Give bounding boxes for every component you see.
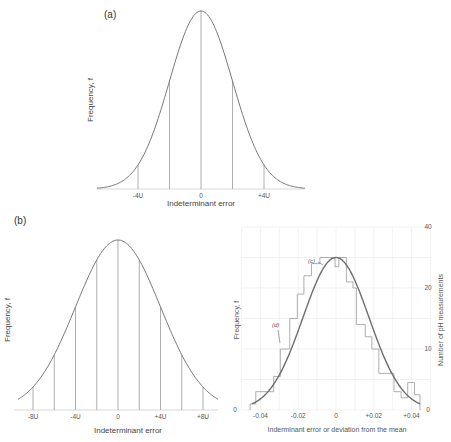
y-tick-label: 20 (424, 284, 432, 291)
panel-b-right-histogram-steps (250, 258, 420, 411)
panel-b-left-x-tick-labels: -8U-4U0+4U+8U (28, 413, 210, 420)
panel-a-x-tick-labels: -4U0+4U (133, 192, 271, 199)
annotation-d-label: (d) (272, 322, 279, 328)
panel-b-right-left-y-axis-title: Frequency, f (233, 301, 241, 339)
panel-a-y-axis-title: Frequency, f (86, 77, 95, 122)
annotation-d: (d) (272, 322, 280, 343)
panel-a-normal-curve: (a) Frequency, f -4U0+4U Indeterminant e… (86, 9, 305, 208)
x-tick-label: +4U (154, 413, 166, 420)
panel-a-label: (a) (104, 9, 116, 20)
x-tick-label: 0 (334, 412, 338, 419)
y-tick-label: 40 (424, 223, 432, 230)
panel-b-right-x-axis-title: Inderminant error or deviation from the … (268, 426, 407, 433)
x-tick-label: -4U (70, 413, 81, 420)
y-tick-label: 10 (424, 345, 432, 352)
x-tick-label: +0.04 (403, 412, 420, 419)
x-tick-label: +0.02 (366, 412, 383, 419)
panel-b-right-histogram: Frequency, f 0 Number of pH measurements… (233, 223, 445, 433)
x-tick-label: -0.02 (291, 412, 306, 419)
panel-b-label: (b) (14, 215, 26, 226)
panel-a-vertical-lines (138, 11, 264, 189)
panel-a-x-axis-title: Indeterminant error (167, 199, 235, 208)
x-tick-label: 0 (116, 413, 120, 420)
x-tick-label: -4U (133, 192, 144, 199)
panel-b-right-left-y-zero: 0 (233, 406, 237, 413)
panel-b-right-y-tick-labels: 0102040 (424, 223, 432, 413)
y-tick-label: 0 (426, 406, 430, 413)
figure-canvas: (a) Frequency, f -4U0+4U Indeterminant e… (0, 0, 451, 442)
panel-b-left-x-axis-title: Indeterminant error (94, 426, 162, 435)
panel-b-left-vertical-lines (33, 240, 203, 410)
panel-b-left-y-axis-title: Frequency, f (3, 297, 12, 342)
panel-b-right-x-tick-labels: -0.04-0.020+0.02+0.04 (253, 412, 420, 419)
x-tick-label: +4U (258, 192, 270, 199)
x-tick-label: +8U (197, 413, 209, 420)
x-tick-label: 0 (199, 192, 203, 199)
x-tick-label: -8U (28, 413, 39, 420)
annotation-c-label: (c) (308, 258, 315, 264)
panel-b-right-grid (242, 227, 431, 410)
panel-b-right-right-y-axis-title: Number of pH measurements (437, 274, 445, 366)
panel-b-left-normal-curve: (b) Frequency, f -8U-4U0+4U+8U Indetermi… (3, 215, 218, 435)
x-tick-label: -0.04 (253, 412, 268, 419)
